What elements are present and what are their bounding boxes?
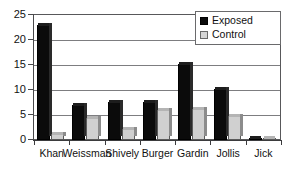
y-tick-label: 15: [0, 59, 26, 70]
bar-shively-control: [122, 129, 135, 140]
bar-burger-control: [157, 110, 170, 141]
bar-weissman-exposed: [72, 105, 85, 140]
bar-burger-exposed: [143, 102, 156, 141]
black-square-icon: [200, 17, 208, 25]
y-tickmark-icon: [28, 114, 33, 115]
gray-square-icon: [200, 31, 208, 39]
x-tickmark-icon: [281, 141, 282, 145]
bar-top-face: [179, 62, 190, 65]
legend-item-exposed: Exposed: [200, 14, 277, 27]
bar-top-face: [158, 108, 169, 111]
bar-side-face: [49, 23, 52, 136]
y-tick-20: 20: [0, 34, 33, 45]
bar-side-face: [204, 107, 207, 136]
bar-top-face: [73, 103, 84, 106]
bar-gardin-exposed: [178, 64, 191, 140]
x-axis-label: Jollis: [216, 147, 239, 159]
x-tickmark-icon: [69, 141, 70, 145]
bar-side-face: [169, 108, 172, 137]
y-tick-10: 10: [0, 84, 33, 95]
bar-top-face: [229, 114, 240, 117]
x-axis-label: Weissman: [63, 147, 112, 159]
x-axis-label: Gardin: [177, 147, 209, 159]
x-tickmark-icon: [246, 141, 247, 145]
bar-side-face: [63, 132, 66, 137]
bar-weissman-control: [86, 118, 99, 141]
y-tick-label: 20: [0, 34, 26, 45]
legend: Exposed Control: [195, 11, 281, 45]
y-tick-25: 25: [0, 9, 33, 20]
bar-chart: 25 20 15 10 5 0 KhanWeissmanShivelyBurge…: [0, 0, 290, 170]
y-tickmark-icon: [28, 14, 33, 15]
bar-jollis-exposed: [214, 89, 227, 141]
y-tick-15: 15: [0, 59, 33, 70]
bar-top-face: [52, 132, 63, 135]
bar-top-face: [193, 107, 204, 110]
legend-item-control: Control: [200, 28, 277, 41]
bar-jollis-control: [228, 116, 241, 140]
y-tick-label: 5: [0, 109, 26, 120]
y-tick-label: 25: [0, 9, 26, 20]
x-axis-label: Khan: [39, 147, 64, 159]
y-tickmark-icon: [28, 64, 33, 65]
x-tickmark-icon: [34, 141, 35, 145]
bar-top-face: [144, 100, 155, 103]
legend-label: Control: [212, 29, 246, 40]
x-tickmark-icon: [105, 141, 106, 145]
x-tickmark-icon: [210, 141, 211, 145]
bar-top-face: [250, 136, 261, 139]
y-axis: 25 20 15 10 5 0: [0, 0, 33, 170]
bar-top-face: [215, 87, 226, 90]
y-tick-5: 5: [0, 109, 33, 120]
bar-top-face: [264, 136, 275, 139]
x-axis-label: Burger: [142, 147, 174, 159]
bar-top-face: [38, 23, 49, 26]
bar-shively-exposed: [108, 102, 121, 141]
bar-top-face: [109, 100, 120, 103]
y-tick-label: 0: [0, 134, 26, 145]
y-tickmark-icon: [28, 39, 33, 40]
x-axis-label: Shively: [105, 147, 139, 159]
bar-top-face: [87, 116, 98, 119]
bar-side-face: [134, 127, 137, 136]
bar-gardin-control: [192, 109, 205, 140]
bar-side-face: [98, 116, 101, 137]
x-axis-line: [33, 140, 282, 141]
y-tickmark-icon: [28, 89, 33, 90]
bar-top-face: [123, 127, 134, 130]
legend-label: Exposed: [212, 15, 253, 26]
x-axis-label: Jick: [254, 147, 272, 159]
x-tickmark-icon: [140, 141, 141, 145]
y-tick-label: 10: [0, 84, 26, 95]
bar-khan-exposed: [37, 25, 50, 140]
y-tick-0: 0: [0, 134, 33, 145]
bar-side-face: [240, 114, 243, 136]
x-tickmark-icon: [175, 141, 176, 145]
